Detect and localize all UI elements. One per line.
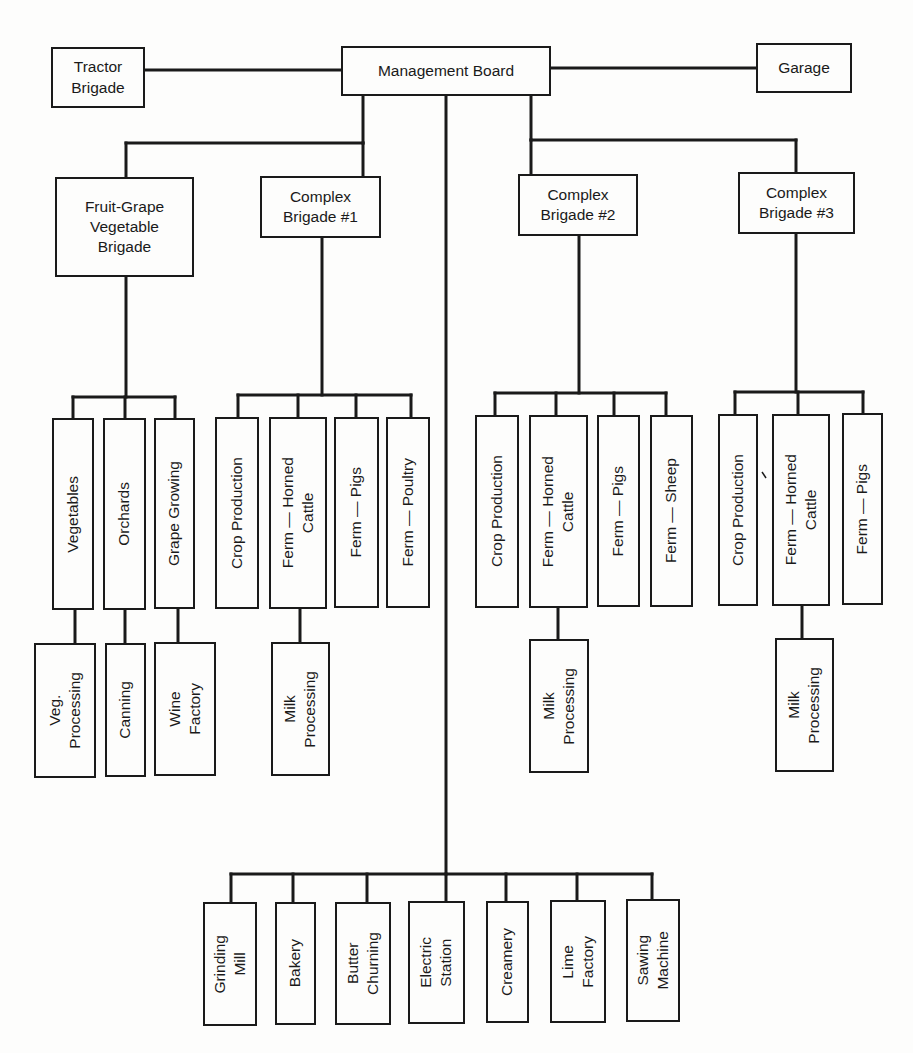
complex-brigade-3-label: Complex Brigade #3 xyxy=(759,183,834,223)
c1-horned-cattle: Ferm — Horned Cattle xyxy=(269,417,327,609)
c3-milk-processing: Milk Processing xyxy=(775,638,834,772)
complex-brigade-2-label: Complex Brigade #2 xyxy=(541,185,616,225)
c1-pigs: Ferm — Pigs xyxy=(334,417,379,608)
enterprise-grinding-mill: Grinding Mill xyxy=(203,902,257,1026)
complex-brigade-1-box: Complex Brigade #1 xyxy=(260,176,381,238)
enterprise-electric-station: Electric Station xyxy=(408,901,465,1024)
c2-horned-cattle: Ferm — Horned Cattle xyxy=(529,415,588,608)
enterprise-lime-factory: Lime Factory xyxy=(550,900,606,1023)
processing-wine-factory: Wine Factory xyxy=(154,642,216,776)
c3-horned-cattle: Ferm — Horned Cattle xyxy=(772,414,830,606)
tractor-brigade-label: Tractor Brigade xyxy=(71,57,124,97)
enterprise-sawing-machine: Sawing Machine xyxy=(626,899,680,1022)
fruit-grape-vegetable-brigade-label: Fruit-Grape Vegetable Brigade xyxy=(85,197,164,257)
processing-veg: Veg. Processing xyxy=(34,643,96,778)
c3-crop-production: Crop Production xyxy=(718,414,758,606)
c1-poultry: Ferm — Poultry xyxy=(386,417,430,608)
c2-pigs: Ferm — Pigs xyxy=(597,415,640,607)
complex-brigade-3-box: Complex Brigade #3 xyxy=(738,172,855,234)
complex-brigade-1-label: Complex Brigade #1 xyxy=(283,187,358,227)
tractor-brigade-box: Tractor Brigade xyxy=(51,47,145,108)
garage-box: Garage xyxy=(756,43,852,93)
enterprise-butter-churning: Butter Churning xyxy=(335,902,391,1025)
c1-crop-production: Crop Production xyxy=(215,417,259,609)
enterprise-bakery: Bakery xyxy=(275,902,316,1025)
c2-sheep: Ferm — Sheep xyxy=(650,415,693,607)
unit-orchards: Orchards xyxy=(103,418,146,610)
enterprise-creamery: Creamery xyxy=(486,901,529,1023)
c2-milk-processing: Milk Processing xyxy=(529,639,589,773)
unit-grape-growing: Grape Growing xyxy=(154,418,195,609)
processing-canning: Canning xyxy=(105,643,146,777)
management-board-box: Management Board xyxy=(341,46,551,96)
complex-brigade-2-box: Complex Brigade #2 xyxy=(518,174,638,236)
management-board-label: Management Board xyxy=(378,61,514,81)
fruit-grape-vegetable-brigade-box: Fruit-Grape Vegetable Brigade xyxy=(55,177,194,277)
c2-crop-production: Crop Production xyxy=(475,415,519,608)
c1-milk-processing: Milk Processing xyxy=(271,642,330,776)
garage-label: Garage xyxy=(778,58,830,78)
c3-pigs: Ferm — Pigs xyxy=(842,413,883,605)
unit-vegetables: Vegetables xyxy=(52,418,94,610)
